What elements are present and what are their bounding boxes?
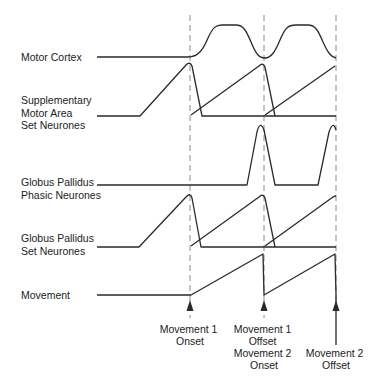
event-labels: Movement 1 Onset Movement 1 Offset Movem… [160,323,367,371]
trace-gp-set-ramp-2 [265,196,336,246]
event-arrows [187,300,340,311]
row-label-gp-phasic: Globus Pallidus Phasic Neurones [21,176,101,201]
trace-gp-phasic [97,125,336,185]
arrow-up-icon [261,300,268,311]
arrow-up-icon [187,300,194,311]
row-labels: Motor Cortex Supplementary Motor Area Se… [21,51,101,301]
trace-sma-set-ramp-2 [265,66,335,115]
trace-sma-set-ramp-1 [191,64,275,116]
event-label-m1-offset-m2-onset: Movement 1 Offset Movement 2 Onset [234,323,295,371]
timing-diagram: Motor Cortex Supplementary Motor Area Se… [0,0,381,389]
event-label-m1-onset: Movement 1 Onset [160,323,221,347]
trace-motor-cortex [97,25,336,58]
row-label-gp-set: Globus Pallidus Set Neurones [21,232,97,257]
row-label-motor-cortex: Motor Cortex [21,51,82,63]
trace-gp-set-ramp-1 [191,195,275,247]
arrow-up-icon [333,300,340,311]
row-label-movement: Movement [21,289,70,301]
row-label-sma-set: Supplementary Motor Area Set Neurones [21,94,95,131]
event-label-m2-offset: Movement 2 Offset [306,347,367,371]
